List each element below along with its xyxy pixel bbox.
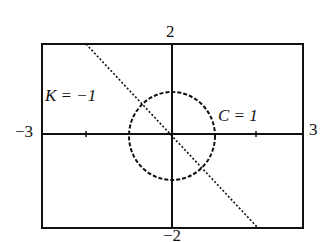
y-min-label: −2 <box>163 226 181 242</box>
plot-canvas <box>0 0 323 242</box>
c-label: C = 1 <box>218 106 258 126</box>
phase-plot: 2 −2 −3 3 K = −1 C = 1 <box>0 0 323 242</box>
y-max-label: 2 <box>166 22 175 42</box>
x-min-label: −3 <box>15 122 33 142</box>
k-label: K = −1 <box>45 86 96 106</box>
x-max-label: 3 <box>309 120 318 140</box>
